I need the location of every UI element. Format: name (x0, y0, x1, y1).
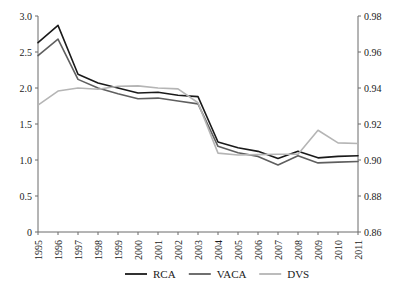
left-axis-spine (38, 16, 358, 232)
x-axis-tick-label: 1999 (113, 240, 124, 260)
left-axis-tick-label: 1.5 (20, 119, 33, 130)
right-axis-tick-label: 0.92 (364, 119, 382, 130)
left-axis-tick-label: 1.0 (20, 155, 33, 166)
x-axis-tick-label: 2011 (353, 240, 364, 260)
x-axis-tick-label: 2001 (153, 240, 164, 260)
legend-label-dvs: DVS (287, 268, 309, 280)
chart-canvas: 00.51.01.52.02.53.00.860.880.900.920.940… (0, 0, 414, 288)
right-axis-tick-label: 0.88 (364, 191, 382, 202)
x-axis-tick-label: 2007 (273, 240, 284, 260)
left-axis-tick-label: 0 (27, 227, 32, 238)
x-axis-tick-label: 2009 (313, 240, 324, 260)
x-axis-tick-label: 2006 (253, 240, 264, 260)
right-axis-tick-label: 0.86 (364, 227, 382, 238)
x-axis-tick-label: 1996 (53, 240, 64, 260)
x-axis-tick-label: 2005 (233, 240, 244, 260)
x-axis-tick-label: 2003 (193, 240, 204, 260)
x-axis-tick-label: 1997 (73, 240, 84, 260)
right-axis-tick-label: 0.98 (364, 11, 382, 22)
right-axis-tick-label: 0.96 (364, 47, 382, 58)
left-axis-tick-label: 2.5 (20, 47, 33, 58)
x-axis-tick-label: 2002 (173, 240, 184, 260)
x-axis-tick-label: 2010 (333, 240, 344, 260)
x-axis-tick-label: 1995 (33, 240, 44, 260)
x-axis-tick-label: 2004 (213, 240, 224, 260)
legend-label-rca: RCA (153, 268, 176, 280)
left-axis-tick-label: 3.0 (20, 11, 33, 22)
left-axis-tick-label: 2.0 (20, 83, 33, 94)
line-chart: 00.51.01.52.02.53.00.860.880.900.920.940… (0, 0, 414, 288)
series-line-rca (38, 25, 358, 158)
x-axis-tick-label: 2008 (293, 240, 304, 260)
right-axis-tick-label: 0.94 (364, 83, 382, 94)
x-axis-tick-label: 1998 (93, 240, 104, 260)
legend-label-vaca: VACA (217, 268, 247, 280)
x-axis-tick-label: 2000 (133, 240, 144, 260)
left-axis-tick-label: 0.5 (20, 191, 33, 202)
right-axis-tick-label: 0.90 (364, 155, 382, 166)
